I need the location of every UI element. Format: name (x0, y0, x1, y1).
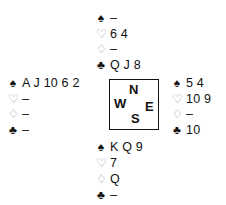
west-hearts-row: ♡– (6, 91, 29, 107)
compass-west-label: W (114, 97, 126, 111)
south-hearts-cards: 7 (110, 155, 117, 171)
diamond-icon: ♢ (94, 171, 108, 187)
spade-icon: ♠ (94, 139, 108, 155)
west-hearts-cards: – (22, 91, 29, 107)
south-clubs-cards: – (110, 187, 117, 203)
compass-south-label: S (131, 112, 140, 126)
north-hearts-cards: 6 4 (110, 26, 128, 42)
east-hearts-row: ♡10 9 (170, 91, 211, 107)
south-diamonds-row: ♢Q (94, 171, 120, 187)
heart-icon: ♡ (170, 91, 184, 107)
south-hearts-row: ♡7 (94, 155, 117, 171)
club-icon: ♣ (6, 122, 20, 138)
south-spades-cards: K Q 9 (110, 139, 143, 155)
west-spades-row: ♠A J 10 6 2 (6, 75, 80, 91)
north-diamonds-cards: – (110, 41, 117, 57)
west-diamonds-row: ♢– (6, 106, 29, 122)
heart-icon: ♡ (94, 26, 108, 42)
north-clubs-row: ♣Q J 8 (94, 57, 141, 73)
north-clubs-cards: Q J 8 (110, 57, 141, 73)
east-spades-row: ♠5 4 (170, 75, 204, 91)
club-icon: ♣ (94, 57, 108, 73)
diamond-icon: ♢ (170, 106, 184, 122)
south-clubs-row: ♣– (94, 187, 117, 203)
heart-icon: ♡ (94, 155, 108, 171)
compass-box: N W E S (109, 79, 159, 130)
north-spades-cards: – (110, 10, 117, 26)
west-spades-cards: A J 10 6 2 (22, 75, 80, 91)
north-spades-row: ♠– (94, 10, 117, 26)
south-spades-row: ♠K Q 9 (94, 139, 143, 155)
diamond-icon: ♢ (6, 106, 20, 122)
east-clubs-cards: 10 (186, 122, 200, 138)
east-spades-cards: 5 4 (186, 75, 204, 91)
west-clubs-row: ♣– (6, 122, 29, 138)
east-diamonds-cards: – (186, 106, 193, 122)
north-hearts-row: ♡6 4 (94, 26, 128, 42)
club-icon: ♣ (170, 122, 184, 138)
spade-icon: ♠ (6, 75, 20, 91)
diamond-icon: ♢ (94, 41, 108, 57)
spade-icon: ♠ (94, 10, 108, 26)
club-icon: ♣ (94, 187, 108, 203)
spade-icon: ♠ (170, 75, 184, 91)
north-diamonds-row: ♢– (94, 41, 117, 57)
east-clubs-row: ♣10 (170, 122, 200, 138)
compass-east-label: E (145, 100, 154, 114)
west-clubs-cards: – (22, 122, 29, 138)
west-diamonds-cards: – (22, 106, 29, 122)
compass-north-label: N (129, 83, 138, 97)
east-hearts-cards: 10 9 (186, 91, 211, 107)
south-diamonds-cards: Q (110, 171, 120, 187)
east-diamonds-row: ♢– (170, 106, 193, 122)
heart-icon: ♡ (6, 91, 20, 107)
